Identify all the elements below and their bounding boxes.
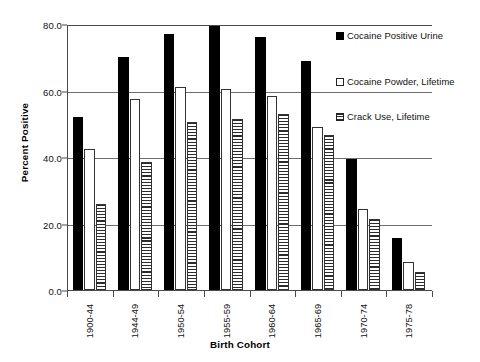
legend-item: Cocaine Positive Urine	[336, 30, 443, 41]
bar-urine	[255, 37, 266, 290]
bar-group	[68, 25, 114, 290]
bar-crack	[369, 219, 380, 290]
x-axis-title: Birth Cohort	[0, 339, 480, 350]
legend-swatch-urine-icon	[336, 32, 344, 40]
bar-powder	[312, 127, 323, 290]
legend-label: Crack Use, Lifetime	[347, 111, 430, 122]
bar-powder	[358, 209, 369, 290]
bar-group	[159, 25, 205, 290]
legend-swatch-powder-icon	[336, 78, 344, 86]
bar-urine	[118, 57, 129, 290]
y-axis-title: Percent Positive	[19, 83, 30, 203]
bar-group	[387, 25, 433, 290]
bar-powder	[267, 96, 278, 291]
bar-powder	[403, 262, 414, 290]
bar-group	[342, 25, 388, 290]
bar-urine	[301, 61, 312, 290]
bar-powder	[130, 99, 141, 290]
bar-crack	[415, 272, 426, 290]
bar-urine	[209, 26, 220, 290]
bar-crack	[232, 119, 243, 290]
bar-urine	[164, 34, 175, 290]
bar-crack	[141, 162, 152, 290]
legend-swatch-crack-icon	[336, 113, 344, 121]
bar-powder	[175, 87, 186, 290]
legend-label: Cocaine Powder, Lifetime	[347, 76, 455, 87]
bar-crack	[187, 122, 198, 290]
bar-group	[251, 25, 297, 290]
bar-group	[114, 25, 160, 290]
x-axis-tick-labels: 1900-441944-491950-541955-591960-641965-…	[67, 294, 432, 340]
bar-crack	[96, 204, 107, 290]
plot-area	[67, 25, 432, 291]
x-axis-tick-mark	[432, 291, 433, 297]
bar-powder	[221, 89, 232, 290]
bar-urine	[346, 159, 357, 290]
bar-powder	[84, 149, 95, 290]
y-axis-tick-marks	[0, 25, 67, 291]
bar-group	[296, 25, 342, 290]
legend-item: Cocaine Powder, Lifetime	[336, 76, 455, 87]
bar-urine	[73, 117, 84, 290]
bar-urine	[392, 238, 403, 290]
bar-groups	[68, 25, 432, 290]
legend-item: Crack Use, Lifetime	[336, 111, 430, 122]
bar-group	[205, 25, 251, 290]
legend-label: Cocaine Positive Urine	[347, 30, 443, 41]
bar-crack	[278, 114, 289, 290]
bar-crack	[324, 135, 335, 290]
bar-chart-figure: 0.020.040.060.080.0 Percent Positive 190…	[0, 0, 480, 362]
